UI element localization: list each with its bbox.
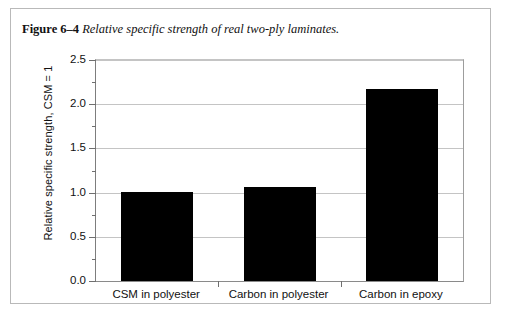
y-axis-major-tick xyxy=(89,60,96,61)
x-axis-tick xyxy=(218,281,219,287)
bar-chart: Relative specific strength, CSM = 1 0.00… xyxy=(11,43,492,305)
figure-caption: Figure 6–4 Relative specific strength of… xyxy=(22,22,339,37)
y-axis-minor-tick xyxy=(92,171,96,172)
y-axis-major-tick xyxy=(89,193,96,194)
y-axis-minor-tick xyxy=(92,126,96,127)
x-axis-category-label: Carbon in epoxy xyxy=(359,288,443,300)
x-axis-category-label: Carbon in polyester xyxy=(229,288,329,300)
y-axis-tick-label: 2.0 xyxy=(70,97,86,109)
y-axis-minor-tick xyxy=(92,82,96,83)
y-axis-major-tick xyxy=(89,148,96,149)
bar xyxy=(244,187,316,281)
bar xyxy=(366,89,438,281)
figure-number: Figure 6–4 xyxy=(22,22,79,36)
y-axis-tick-label: 1.0 xyxy=(70,186,86,198)
y-axis-major-tick xyxy=(89,237,96,238)
y-axis-minor-tick xyxy=(92,259,96,260)
y-axis-tick-label: 1.5 xyxy=(70,141,86,153)
y-axis-tick-label: 2.5 xyxy=(70,53,86,65)
y-axis-major-tick xyxy=(89,281,96,282)
plot-area xyxy=(95,59,464,282)
y-axis-major-tick xyxy=(89,104,96,105)
bar xyxy=(121,192,193,281)
gridline xyxy=(96,60,463,61)
y-axis-tick-label: 0.5 xyxy=(70,230,86,242)
x-axis-category-label: CSM in polyester xyxy=(112,288,200,300)
figure-title: Relative specific strength of real two-p… xyxy=(82,22,339,36)
y-axis-label: Relative specific strength, CSM = 1 xyxy=(42,53,54,253)
y-axis-tick-label: 0.0 xyxy=(70,274,86,286)
x-axis-tick xyxy=(341,281,342,287)
y-axis-minor-tick xyxy=(92,215,96,216)
figure-page: Figure 6–4 Relative specific strength of… xyxy=(10,8,491,304)
